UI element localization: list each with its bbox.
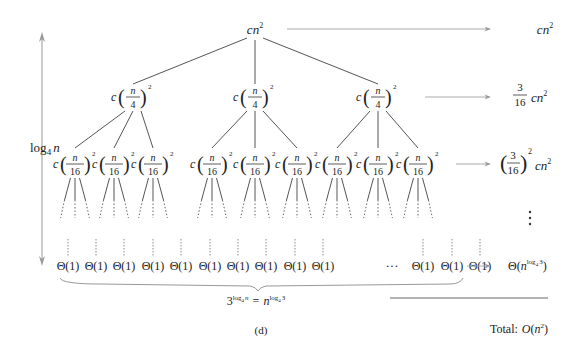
leaf-node: Θ(1) (113, 259, 136, 273)
svg-text:): ) (162, 153, 169, 176)
leaf-node: Θ(1) (57, 259, 80, 273)
svg-text:c: c (396, 157, 402, 171)
level0-cost: cn2 (537, 21, 553, 37)
leaf-node: Θ(1) (255, 259, 278, 273)
svg-text:cn2: cn2 (247, 21, 263, 37)
leaf-node: Θ(1) (85, 259, 108, 273)
leaf-node: Θ(1) (170, 259, 193, 273)
svg-text:n: n (253, 85, 258, 96)
svg-text:): ) (385, 86, 392, 109)
level1-node: c(n4)2 (356, 83, 397, 110)
level1-cost: 3 16 cn2 (513, 81, 547, 108)
svg-text:2: 2 (435, 150, 439, 158)
root-edges (133, 38, 378, 84)
svg-text:16: 16 (70, 166, 80, 177)
leaf-node: Θ(1) (312, 259, 335, 273)
leaf-row: Θ(1)Θ(1)Θ(1)Θ(1)Θ(1)Θ(1)Θ(1)Θ(1)Θ(1)Θ(1)… (57, 239, 492, 273)
svg-text:2: 2 (170, 150, 174, 158)
svg-text:): ) (123, 153, 130, 176)
svg-text:n: n (131, 85, 136, 96)
svg-text:c: c (131, 157, 137, 171)
svg-text:n: n (151, 152, 156, 163)
svg-text:): ) (346, 153, 353, 176)
svg-text:n: n (210, 152, 215, 163)
leaf-node: Θ(1) (284, 259, 307, 273)
svg-text:16: 16 (148, 166, 158, 177)
svg-text:(: ( (403, 153, 410, 176)
svg-text:16: 16 (332, 166, 342, 177)
tree-edge (75, 111, 125, 148)
svg-text:4: 4 (376, 99, 381, 110)
svg-text:): ) (262, 86, 269, 109)
svg-text:): ) (221, 153, 228, 176)
level2-cost: ( 3 16 ) 2 cn2 (500, 147, 551, 176)
level1-node: c(n4)2 (233, 83, 274, 110)
svg-text:2: 2 (148, 83, 152, 91)
svg-text:2: 2 (393, 83, 397, 91)
svg-text:(: ( (322, 153, 329, 176)
svg-text:n: n (335, 152, 340, 163)
svg-text:): ) (84, 153, 91, 176)
level2-node: c(n16)2 (315, 150, 358, 177)
svg-text:cn2: cn2 (531, 89, 547, 105)
level2-nodes: c(n16)2c(n16)2c(n16)2c(n16)2c(n16)2c(n16… (53, 111, 439, 218)
level2-node: c(n16)2 (190, 150, 233, 177)
height-label: log4n (30, 140, 60, 157)
svg-text:c: c (190, 157, 196, 171)
svg-text:c: c (356, 90, 362, 104)
svg-text:(: ( (60, 153, 67, 176)
root-node: cn2 (247, 21, 263, 37)
level2-node: c(n16)2 (131, 150, 174, 177)
svg-text:): ) (520, 150, 527, 175)
svg-text:16: 16 (207, 166, 217, 177)
svg-text:(: ( (240, 86, 247, 109)
svg-text:(: ( (500, 150, 507, 175)
svg-text:(: ( (138, 153, 145, 176)
svg-text:(: ( (197, 153, 204, 176)
leaf-node: Θ(1) (199, 259, 222, 273)
svg-text:16: 16 (508, 164, 520, 176)
figure-caption: (d) (255, 324, 268, 337)
svg-text:16: 16 (373, 166, 383, 177)
svg-text:): ) (264, 153, 271, 176)
svg-text:4: 4 (253, 99, 258, 110)
svg-text:(: ( (363, 153, 370, 176)
svg-text:(: ( (99, 153, 106, 176)
svg-text:c: c (356, 157, 362, 171)
level-ellipsis-vertical (529, 211, 531, 225)
level2-node: c(n16)2 (92, 150, 135, 177)
svg-text:2: 2 (270, 83, 274, 91)
svg-text:16: 16 (413, 166, 423, 177)
svg-text:n: n (112, 152, 117, 163)
svg-text:4: 4 (131, 99, 136, 110)
leaf-node: Θ(1) (227, 259, 250, 273)
svg-text:16: 16 (515, 96, 527, 108)
tree-edge (263, 111, 297, 148)
level2-node: c(n16)2 (396, 150, 439, 177)
leaf-node: Θ(1) (441, 259, 464, 273)
leaf-ellipsis: ··· (386, 258, 399, 273)
svg-text:3: 3 (510, 149, 516, 161)
svg-text:16: 16 (250, 166, 260, 177)
leaf-level-cost: Θ(nlog43) (508, 258, 547, 273)
svg-text:(: ( (282, 153, 289, 176)
level2-node: c(n16)2 (53, 150, 96, 177)
tree-edge (141, 111, 153, 148)
svg-text:): ) (306, 153, 313, 176)
leaf-node: Θ(1) (142, 259, 165, 273)
leaf-brace (60, 278, 463, 291)
svg-text:c: c (233, 90, 239, 104)
svg-text:c: c (275, 157, 281, 171)
level2-node: c(n16)2 (275, 150, 318, 177)
svg-text:cn2: cn2 (535, 157, 551, 173)
level2-node: c(n16)2 (356, 150, 399, 177)
svg-text:c: c (53, 157, 59, 171)
svg-text:c: c (92, 157, 98, 171)
svg-text:n: n (253, 152, 258, 163)
svg-text:): ) (387, 153, 394, 176)
svg-text:16: 16 (292, 166, 302, 177)
svg-text:): ) (140, 86, 147, 109)
svg-text:n: n (376, 152, 381, 163)
svg-text:log4n: log4n (30, 140, 60, 157)
recursion-tree-diagram: log4n cn2 cn2 c(n4)2c(n4)2c(n4)2 3 16 cn… (0, 0, 579, 352)
